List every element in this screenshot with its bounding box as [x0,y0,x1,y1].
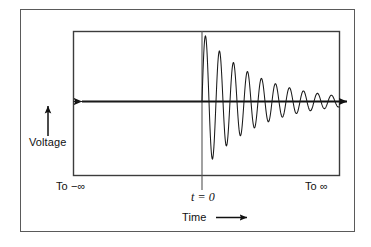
voltage-axis-label: Voltage [29,136,66,148]
figure-container: Voltage To −∞ To ∞ t = 0 Time [0,0,371,247]
waveform-figure [0,0,371,247]
figure-background [0,0,371,247]
t-zero-label: t = 0 [191,191,215,203]
right-limit-label: To ∞ [305,180,328,192]
left-limit-label: To −∞ [56,180,85,192]
time-axis-label: Time [182,211,206,223]
